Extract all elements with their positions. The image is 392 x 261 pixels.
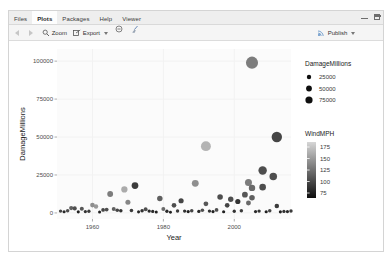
- export-button[interactable]: Export: [73, 25, 108, 41]
- tab-help[interactable]: Help: [95, 11, 118, 24]
- scatter-point: [84, 210, 87, 213]
- back-arrow-icon: [15, 30, 19, 36]
- tab-help-label: Help: [100, 16, 113, 22]
- scatter-point: [275, 204, 280, 209]
- scatter-point: [77, 210, 80, 213]
- forward-button[interactable]: [29, 25, 33, 41]
- scatter-point: [161, 207, 165, 211]
- plot-canvas: 0250005000075000100000196019802000YearDa…: [9, 41, 383, 251]
- export-icon: [73, 29, 81, 37]
- scatter-point: [228, 197, 233, 202]
- clear-all-plots-button[interactable]: [131, 25, 140, 41]
- size-legend-label: 25000: [319, 74, 336, 80]
- y-axis-tick-label: 0: [50, 210, 54, 216]
- scatter-point: [208, 209, 211, 212]
- minimize-icon[interactable]: [361, 14, 368, 21]
- scatter-point: [183, 209, 186, 212]
- color-legend-tick-label: 100: [320, 179, 331, 185]
- y-axis-tick-label: 75000: [36, 96, 53, 102]
- scatter-point: [249, 195, 255, 201]
- zoom-button[interactable]: Zoom: [42, 25, 67, 41]
- tab-packages[interactable]: Packages: [57, 11, 94, 24]
- color-legend-tick-label: 150: [320, 156, 331, 162]
- back-button[interactable]: [15, 25, 19, 41]
- scatter-point: [107, 191, 113, 197]
- scatter-point: [169, 211, 172, 214]
- tab-files-label: Files: [14, 16, 27, 22]
- y-axis-tick-label: 50000: [36, 134, 53, 140]
- scatter-point: [115, 208, 119, 212]
- clear-all-plots-icon: [131, 25, 140, 34]
- tab-viewer[interactable]: Viewer: [117, 11, 146, 24]
- scatter-point: [249, 185, 255, 191]
- tab-viewer-label: Viewer: [122, 16, 141, 22]
- scatter-point: [270, 173, 278, 181]
- scatter-point: [140, 209, 143, 212]
- scatter-point: [80, 207, 84, 211]
- remove-plot-icon: [115, 25, 123, 33]
- scatter-point: [201, 208, 205, 212]
- scatter-point: [105, 208, 109, 212]
- scatter-point: [187, 210, 190, 213]
- plot-legends: DamageMillions250005000075000WindMPH1751…: [305, 60, 352, 198]
- plots-toolbar: Zoom Export: [9, 25, 383, 41]
- publish-button[interactable]: Publish: [317, 25, 355, 41]
- scatter-point: [66, 209, 70, 213]
- tab-files[interactable]: Files: [9, 11, 32, 24]
- scatter-point: [254, 210, 257, 213]
- tab-plots-label: Plots: [37, 16, 52, 22]
- scatter-point: [201, 141, 211, 151]
- x-axis-tick-label: 2000: [228, 224, 242, 230]
- x-axis-tick-label: 1980: [157, 224, 171, 230]
- publish-icon: [317, 29, 326, 37]
- scatter-point: [148, 209, 151, 212]
- scatter-point: [144, 207, 148, 211]
- scatter-point: [233, 210, 236, 213]
- scatter-point: [151, 210, 154, 213]
- y-axis-title: DamageMillions: [18, 107, 27, 161]
- scatter-point: [98, 211, 101, 214]
- scatter-point: [101, 208, 105, 212]
- size-legend-label: 75000: [319, 97, 336, 103]
- tab-packages-label: Packages: [62, 16, 89, 22]
- scatter-point: [257, 209, 260, 212]
- y-axis-tick-label: 100000: [33, 58, 54, 64]
- scatter-point: [215, 208, 219, 212]
- scatter-point: [222, 210, 225, 213]
- size-legend-key: [307, 75, 311, 79]
- color-legend-tick-label: 75: [320, 190, 327, 196]
- forward-arrow-icon: [29, 30, 33, 36]
- window-controls: [359, 14, 380, 23]
- scatter-point: [259, 184, 266, 191]
- scatter-point: [137, 210, 140, 213]
- zoom-button-label: Zoom: [52, 30, 67, 36]
- chevron-down-icon: [104, 32, 108, 35]
- scatter-point: [225, 203, 230, 208]
- scatter-point: [165, 210, 168, 213]
- size-legend-label: 50000: [319, 86, 336, 92]
- color-legend-tick-label: 125: [320, 167, 331, 173]
- export-button-label: Export: [83, 30, 100, 36]
- scatter-point: [121, 186, 127, 192]
- scatter-point: [204, 201, 209, 206]
- scatter-point: [265, 210, 268, 213]
- scatter-point: [235, 199, 240, 204]
- maximize-icon[interactable]: [374, 14, 380, 20]
- scatter-point: [87, 210, 90, 213]
- pane-tab-strip: Files Plots Packages Help Viewer: [9, 11, 383, 25]
- scatter-point: [73, 206, 77, 210]
- scatter-point: [289, 209, 292, 212]
- scatter-point: [132, 182, 139, 189]
- scatter-point: [282, 210, 285, 213]
- color-legend-title: WindMPH: [305, 130, 335, 137]
- scatter-point: [246, 201, 251, 206]
- remove-plot-button[interactable]: [115, 25, 123, 41]
- size-legend-key: [305, 96, 312, 103]
- tab-plots[interactable]: Plots: [32, 11, 57, 24]
- scatter-point: [130, 209, 134, 213]
- scatter-point: [242, 192, 248, 198]
- scatter-point: [112, 207, 116, 211]
- scatter-point: [69, 206, 73, 210]
- scatter-point: [190, 209, 194, 213]
- x-axis-title: Year: [166, 233, 182, 242]
